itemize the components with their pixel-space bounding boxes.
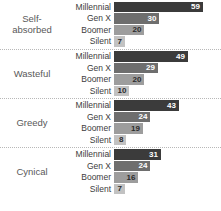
generation-label: Boomer — [60, 124, 114, 133]
generation-label: Boomer — [60, 26, 114, 35]
bar-value-label: 29 — [146, 64, 155, 72]
bar-value-label: 16 — [127, 174, 136, 182]
generation-label: Gen X — [60, 64, 114, 73]
bar: 20 — [114, 25, 144, 36]
generation-label: Millennial — [60, 101, 114, 110]
bar: 31 — [114, 149, 161, 160]
bar-value-label: 20 — [133, 26, 142, 34]
bar: 59 — [114, 2, 203, 13]
category-label: Self- absorbed — [0, 14, 60, 35]
group-rows: Millennial43Gen X24Boomer19Silent8 — [60, 100, 221, 146]
generation-label: Millennial — [60, 3, 114, 12]
bar: 20 — [114, 74, 144, 85]
bar: 10 — [114, 86, 129, 97]
bar-track: 30 — [114, 13, 219, 24]
generation-label: Gen X — [60, 162, 114, 171]
bar-track: 59 — [114, 2, 219, 13]
bar-row: Gen X24 — [60, 112, 219, 123]
bar-row: Boomer20 — [60, 25, 219, 36]
bar: 30 — [114, 13, 159, 24]
generation-label: Silent — [60, 136, 114, 145]
chart-group: GreedyMillennial43Gen X24Boomer19Silent8 — [0, 98, 221, 147]
bar-value-label: 20 — [133, 76, 142, 84]
group-rows: Millennial49Gen X29Boomer20Silent10 — [60, 51, 221, 97]
bar-track: 7 — [114, 184, 219, 195]
bar-row: Boomer16 — [60, 172, 219, 183]
bar: 16 — [114, 172, 138, 183]
bar-track: 49 — [114, 51, 219, 62]
category-label: Wasteful — [0, 69, 60, 80]
bar-row: Gen X30 — [60, 13, 219, 24]
bar-track: 19 — [114, 123, 219, 134]
generation-label: Boomer — [60, 173, 114, 182]
bar-row: Silent7 — [60, 36, 219, 47]
generation-label: Silent — [60, 185, 114, 194]
bar: 24 — [114, 161, 150, 172]
bar-track: 7 — [114, 36, 219, 47]
bar: 7 — [114, 36, 125, 47]
bar-row: Gen X29 — [60, 63, 219, 74]
bar-value-label: 10 — [118, 87, 127, 95]
bar-value-label: 31 — [149, 151, 158, 159]
chart-group: Self- absorbedMillennial59Gen X30Boomer2… — [0, 0, 221, 49]
bar-value-label: 24 — [139, 162, 148, 170]
bar-row: Millennial31 — [60, 149, 219, 160]
bar-track: 24 — [114, 112, 219, 123]
bar: 29 — [114, 63, 158, 74]
generation-label: Gen X — [60, 14, 114, 23]
bar-track: 31 — [114, 149, 219, 160]
bar: 43 — [114, 100, 179, 111]
bar-track: 20 — [114, 74, 219, 85]
generations-traits-bar-chart: Self- absorbedMillennial59Gen X30Boomer2… — [0, 0, 221, 211]
bar-row: Gen X24 — [60, 161, 219, 172]
bar: 7 — [114, 184, 125, 195]
bar: 24 — [114, 112, 150, 123]
bar-value-label: 8 — [119, 136, 123, 144]
bar-track: 24 — [114, 161, 219, 172]
bar-row: Millennial43 — [60, 100, 219, 111]
generation-label: Silent — [60, 87, 114, 96]
bar-track: 8 — [114, 135, 219, 146]
chart-group: CynicalMillennial31Gen X24Boomer16Silent… — [0, 147, 221, 196]
generation-label: Silent — [60, 37, 114, 46]
bar: 8 — [114, 135, 126, 146]
bar-value-label: 43 — [167, 102, 176, 110]
generation-label: Gen X — [60, 113, 114, 122]
bar: 49 — [114, 51, 188, 62]
generation-label: Millennial — [60, 150, 114, 159]
bar-row: Silent7 — [60, 184, 219, 195]
bar-row: Millennial59 — [60, 2, 219, 13]
bar-track: 20 — [114, 25, 219, 36]
bar-row: Boomer19 — [60, 123, 219, 134]
bar-row: Silent8 — [60, 135, 219, 146]
generation-label: Boomer — [60, 75, 114, 84]
bar-value-label: 24 — [139, 113, 148, 121]
bar-value-label: 7 — [118, 185, 122, 193]
bar-row: Silent10 — [60, 86, 219, 97]
bar-track: 29 — [114, 63, 219, 74]
bar-value-label: 49 — [176, 53, 185, 61]
bar-row: Boomer20 — [60, 74, 219, 85]
category-label: Cynical — [0, 167, 60, 178]
generation-label: Millennial — [60, 52, 114, 61]
chart-group: WastefulMillennial49Gen X29Boomer20Silen… — [0, 49, 221, 98]
bar-value-label: 59 — [191, 3, 200, 11]
bar-value-label: 19 — [131, 125, 140, 133]
group-rows: Millennial59Gen X30Boomer20Silent7 — [60, 2, 221, 48]
group-rows: Millennial31Gen X24Boomer16Silent7 — [60, 149, 221, 195]
bar: 19 — [114, 123, 143, 134]
category-label: Greedy — [0, 118, 60, 129]
bar-row: Millennial49 — [60, 51, 219, 62]
bar-value-label: 30 — [148, 15, 157, 23]
bar-track: 43 — [114, 100, 219, 111]
bar-track: 10 — [114, 86, 219, 97]
bar-value-label: 7 — [118, 38, 122, 46]
bar-track: 16 — [114, 172, 219, 183]
